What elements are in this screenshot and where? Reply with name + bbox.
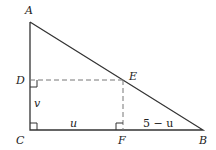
label-point-e: E: [128, 70, 137, 83]
label-segment-v: v: [34, 97, 41, 110]
label-point-a: A: [24, 4, 33, 17]
label-segment-five-minus-u: 5 − u: [143, 117, 173, 130]
triangle-abc: [30, 22, 203, 130]
triangle-diagram: A D C E F B v u 5 − u: [0, 0, 216, 150]
right-angle-mark-c: [30, 123, 37, 130]
label-point-d: D: [15, 74, 25, 87]
label-point-c: C: [16, 134, 25, 147]
right-angle-mark-d: [30, 80, 37, 87]
label-segment-u: u: [70, 117, 77, 130]
right-angle-mark-f: [116, 123, 123, 130]
label-point-b: B: [198, 134, 207, 147]
label-point-f: F: [117, 134, 126, 147]
